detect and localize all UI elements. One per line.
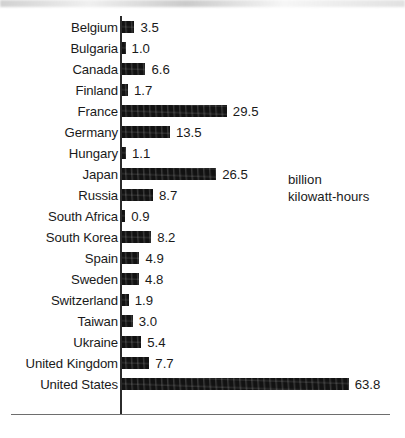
category-label: Russia <box>78 187 118 202</box>
bar-row: Ukraine5.4 <box>0 331 405 352</box>
bar <box>122 42 126 54</box>
bar-row: Switzerland1.9 <box>0 289 405 310</box>
bar <box>122 231 151 243</box>
value-label: 4.8 <box>145 271 163 286</box>
category-label: Canada <box>72 61 118 76</box>
value-label: 0.9 <box>131 208 149 223</box>
value-label: 1.7 <box>134 82 152 97</box>
bar-row: France29.5 <box>0 100 405 121</box>
bar <box>122 273 139 285</box>
category-label: Hungary <box>69 145 118 160</box>
unit-annotation: billion kilowatt-hours <box>288 171 369 205</box>
category-label: Taiwan <box>78 313 118 328</box>
category-label: France <box>78 103 118 118</box>
category-label: South Korea <box>46 229 118 244</box>
bar-row: Spain4.9 <box>0 247 405 268</box>
bar-row: Belgium3.5 <box>0 16 405 37</box>
bar <box>122 210 125 222</box>
value-label: 29.5 <box>233 103 259 118</box>
bar-row: United Kingdom7.7 <box>0 352 405 373</box>
category-label: South Africa <box>48 208 118 223</box>
category-label: Bulgaria <box>70 40 118 55</box>
value-label: 26.5 <box>222 166 248 181</box>
bar-row: Finland1.7 <box>0 79 405 100</box>
category-label: Japan <box>83 166 118 181</box>
chart-baseline-rule <box>11 414 390 415</box>
value-label: 13.5 <box>176 124 202 139</box>
category-label: Finland <box>75 82 118 97</box>
category-label: Belgium <box>71 19 118 34</box>
value-label: 1.0 <box>132 40 150 55</box>
bar <box>122 105 227 117</box>
value-label: 1.9 <box>135 292 153 307</box>
bar <box>122 147 126 159</box>
bar <box>122 168 216 180</box>
bar <box>122 315 133 327</box>
bar-row: South Korea8.2 <box>0 226 405 247</box>
value-label: 1.1 <box>132 145 150 160</box>
bar-row: United States63.8 <box>0 373 405 394</box>
unit-annotation-line-2: kilowatt-hours <box>288 188 369 205</box>
value-label: 8.2 <box>157 229 175 244</box>
value-label: 63.8 <box>355 376 381 391</box>
bar <box>122 21 134 33</box>
horizontal-bar-chart: Belgium3.5Bulgaria1.0Canada6.6Finland1.7… <box>0 0 405 438</box>
bar <box>122 336 141 348</box>
category-label: Sweden <box>71 271 118 286</box>
category-label: Germany <box>64 124 118 139</box>
bar <box>122 63 145 75</box>
bar <box>122 357 149 369</box>
bar-row: Hungary1.1 <box>0 142 405 163</box>
bar-row: Taiwan3.0 <box>0 310 405 331</box>
value-label: 5.4 <box>147 334 165 349</box>
value-label: 3.5 <box>140 19 158 34</box>
value-label: 8.7 <box>159 187 177 202</box>
bar-row: Bulgaria1.0 <box>0 37 405 58</box>
bar-row: Germany13.5 <box>0 121 405 142</box>
bar-row: South Africa0.9 <box>0 205 405 226</box>
category-label: Spain <box>85 250 118 265</box>
value-label: 4.9 <box>145 250 163 265</box>
bar <box>122 378 349 390</box>
bar <box>122 294 129 306</box>
category-label: Ukraine <box>73 334 118 349</box>
bar <box>122 84 128 96</box>
category-label: United States <box>40 376 118 391</box>
bar-row: Canada6.6 <box>0 58 405 79</box>
value-label: 3.0 <box>139 313 157 328</box>
category-label: United Kingdom <box>26 355 118 370</box>
bar <box>122 252 139 264</box>
unit-annotation-line-1: billion <box>288 171 369 188</box>
value-label: 6.6 <box>151 61 169 76</box>
bar <box>122 189 153 201</box>
bar <box>122 126 170 138</box>
bar-row: Sweden4.8 <box>0 268 405 289</box>
value-label: 7.7 <box>155 355 173 370</box>
category-label: Switzerland <box>51 292 118 307</box>
